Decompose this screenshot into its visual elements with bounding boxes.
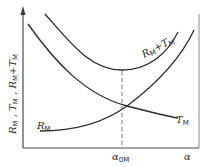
- curve-t-m-label: TM: [176, 114, 189, 127]
- y-axis-arrow-icon: [21, 6, 26, 15]
- x-axis-label: α: [184, 151, 191, 162]
- optimum-alpha-label: α0M: [112, 151, 129, 164]
- y-axis-label: RM , TM , RM+TM: [7, 54, 20, 135]
- diagram-canvas: RM , TM , RM+TM RM+TM TM RM α0M α: [0, 0, 210, 167]
- svg-text:RM , TM , RM+TM: RM , TM , RM+TM: [7, 54, 20, 135]
- curve-t-m: [28, 24, 178, 118]
